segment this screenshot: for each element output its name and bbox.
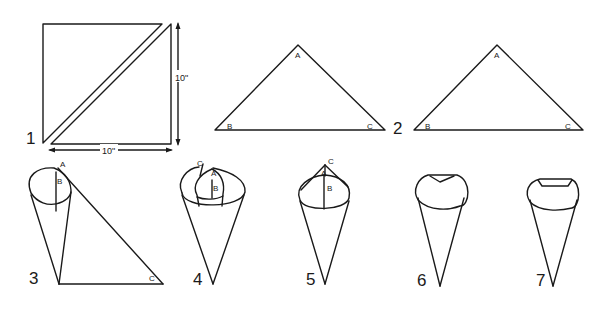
step3-vertex-b: B (57, 177, 62, 186)
step-number-3: 3 (29, 269, 38, 288)
step4-vertex-c: C (197, 159, 203, 168)
vertex-label-b-2: B (425, 122, 430, 131)
step-4-cone (180, 164, 245, 284)
step-7-cone (527, 179, 578, 286)
step-number-7: 7 (536, 271, 545, 290)
step-1-square (43, 22, 186, 155)
step5-vertex-b: B (327, 184, 332, 193)
vertex-label-b: B (227, 122, 232, 131)
vertex-label-c: C (367, 122, 373, 131)
step5-vertex-c: C (328, 157, 334, 166)
arrow-up-icon (176, 22, 181, 29)
step-number-5: 5 (306, 270, 315, 289)
height-dimension-label: 10" (175, 73, 188, 83)
upper-triangle (43, 24, 162, 143)
cone-folding-diagram: 10" 10" 1 A B C 2 A B C A B C 3 (0, 0, 612, 309)
vertex-label-c-2: C (565, 122, 571, 131)
step-5-cone (299, 165, 350, 284)
step-number-2: 2 (393, 119, 402, 138)
arrow-right-icon (166, 148, 173, 153)
step-number-4: 4 (193, 270, 202, 289)
width-dimension-label: 10" (102, 146, 115, 156)
step3-vertex-c: C (149, 274, 155, 283)
step-number-1: 1 (26, 129, 35, 148)
lower-triangle (51, 24, 171, 144)
step-number-6: 6 (417, 271, 426, 290)
step5-vertex-a: A (321, 169, 327, 178)
arrow-left-icon (48, 148, 55, 153)
vertex-label-a-2: A (494, 51, 500, 60)
vertex-label-a: A (295, 51, 301, 60)
arrow-down-icon (176, 139, 181, 146)
step3-vertex-a: A (60, 160, 66, 169)
step4-vertex-a: A (211, 169, 217, 178)
step4-vertex-b: B (213, 184, 218, 193)
step-3-cone (29, 168, 163, 284)
step-6-cone (416, 175, 468, 286)
